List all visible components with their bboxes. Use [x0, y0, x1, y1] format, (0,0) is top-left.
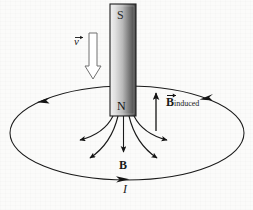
magnet-pole-label-n: N	[117, 100, 126, 112]
current-label: I	[123, 183, 127, 195]
b-field-label: B	[119, 159, 127, 171]
b-field-lines	[80, 116, 167, 158]
velocity-label: v	[74, 36, 79, 47]
b-induced-label-main: B	[166, 95, 174, 109]
physics-diagram: S N v Binduced B I	[0, 0, 253, 210]
magnet-pole-label-s: S	[117, 9, 124, 21]
b-induced-label-subscript: induced	[174, 99, 199, 108]
diagram-canvas	[0, 0, 253, 210]
velocity-arrow	[85, 33, 101, 79]
loop-arrowhead-upper-right	[200, 94, 214, 101]
b-induced-label: Binduced	[166, 96, 199, 108]
